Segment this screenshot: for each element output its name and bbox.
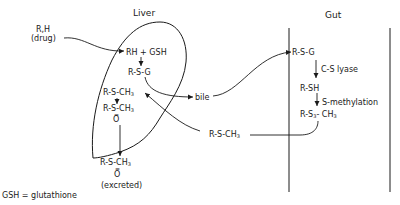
transport-methyl-sulfide: R-S-CH3 bbox=[209, 130, 240, 141]
cs-lyase-label: C-S lyase bbox=[321, 65, 358, 74]
arrow-gut-return bbox=[250, 121, 318, 135]
gut-methyl-sulfide: R-S3- CH3 bbox=[300, 110, 337, 121]
liver-reaction: RH + GSH bbox=[126, 48, 167, 57]
liver-methyl-sulfide: R-S-CH3 bbox=[103, 88, 134, 99]
liver-conjugate: R-S-G bbox=[128, 68, 151, 77]
gut-title: Gut bbox=[325, 11, 341, 20]
arrow-to-bile bbox=[145, 77, 193, 97]
excreted-oxygen: O bbox=[114, 170, 120, 179]
drug-label: (drug) bbox=[31, 34, 56, 43]
gut-conjugate: R-S-G bbox=[292, 48, 315, 57]
gut-thiol: R-SH bbox=[300, 84, 319, 93]
liver-sulfoxide-oxygen: O bbox=[113, 115, 119, 124]
arrow-bile-to-gut bbox=[213, 52, 291, 96]
metabolism-diagram: Liver Gut R,H (drug) RH + GSH R-S-G R-S-… bbox=[0, 0, 400, 205]
s-methylation-label: S-methylation bbox=[322, 98, 378, 107]
excreted-label: (excreted) bbox=[101, 181, 142, 190]
arrow-drug-to-liver bbox=[64, 38, 124, 51]
bile-label: bile bbox=[195, 93, 209, 102]
drug-formula: R,H bbox=[36, 25, 50, 34]
liver-title: Liver bbox=[133, 9, 155, 18]
legend-gsh: GSH = glutathione bbox=[2, 191, 77, 200]
